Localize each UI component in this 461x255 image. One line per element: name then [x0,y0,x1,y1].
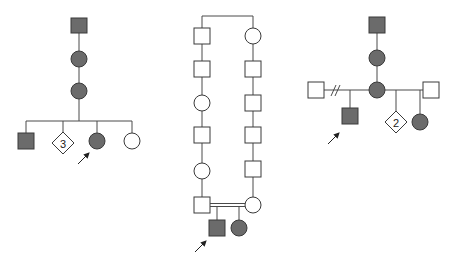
proband-arrow-icon [78,153,89,164]
unaffected-male-symbol [194,197,210,213]
proband-affected-male-symbol [209,220,225,236]
unaffected-male-spouse-symbol [308,82,324,98]
diamond-count-label: 2 [393,117,399,129]
unaffected-male-spouse-symbol [423,82,439,98]
pedigree-b [194,16,261,252]
unaffected-female-symbol [194,95,210,111]
unaffected-female-symbol [194,163,210,179]
unaffected-female-symbol [245,28,261,44]
unaffected-male-symbol [194,28,210,44]
affected-female-symbol [71,51,87,67]
unaffected-male-symbol [245,95,261,111]
affected-male-symbol [18,133,34,149]
unaffected-male-symbol [245,127,261,143]
pedigree-c [308,17,439,144]
proband-arrow-icon [328,133,339,144]
affected-female-symbol [369,50,385,66]
affected-female-symbol [71,83,87,99]
pedigree-figure: 3 [0,0,461,255]
unaffected-female-symbol [245,197,261,213]
affected-male-symbol [71,18,87,33]
unaffected-male-symbol [194,127,210,143]
unaffected-female-symbol [124,133,140,149]
unaffected-male-symbol [194,61,210,77]
diamond-count-label: 3 [60,138,66,150]
unaffected-male-symbol [245,161,261,177]
affected-female-symbol [231,220,247,236]
affected-female-symbol [412,114,428,130]
affected-female-symbol [369,82,385,98]
affected-male-symbol [369,17,385,33]
proband-affected-male-symbol [342,108,358,124]
pedigree-a [18,18,140,164]
proband-arrow-icon [195,241,206,252]
proband-affected-female-symbol [89,133,105,149]
unaffected-male-symbol [245,61,261,77]
